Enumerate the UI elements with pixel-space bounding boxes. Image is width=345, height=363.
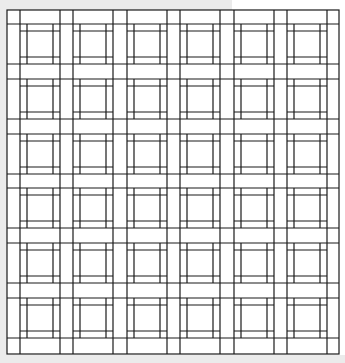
quilt-svg — [0, 0, 345, 363]
quilt-grid-diagram — [0, 0, 345, 363]
outer-frame — [7, 10, 339, 354]
